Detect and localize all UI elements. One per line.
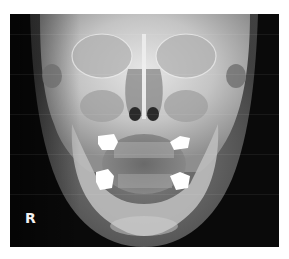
xray-image: R (10, 14, 279, 247)
side-marker: R (25, 211, 36, 225)
restoration-upper-right (98, 134, 118, 150)
skull-radiograph (10, 14, 279, 247)
nasal-septum (142, 34, 146, 119)
right-maxillary-sinus (80, 90, 124, 122)
left-mastoid (226, 64, 246, 88)
lower-teeth (118, 174, 172, 188)
upper-teeth (114, 142, 174, 158)
right-orbit (72, 34, 132, 78)
chin (110, 216, 178, 236)
left-maxillary-sinus (164, 90, 208, 122)
left-orbit (156, 34, 216, 78)
right-mastoid (42, 64, 62, 88)
